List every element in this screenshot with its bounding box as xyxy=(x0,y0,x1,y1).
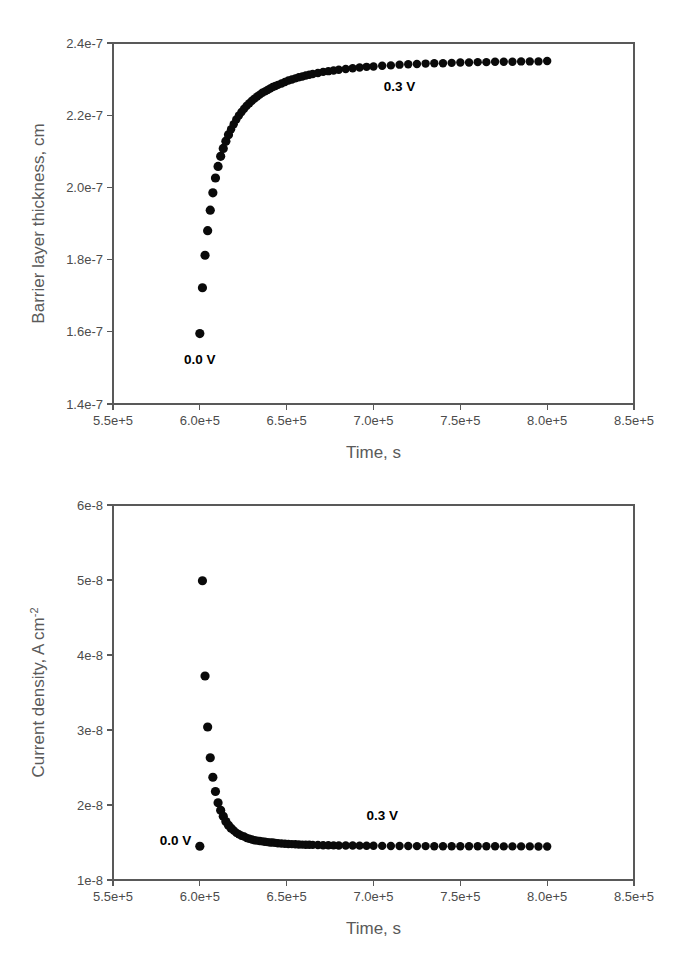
data-point xyxy=(508,842,516,850)
data-point xyxy=(430,842,438,850)
data-point xyxy=(526,842,534,850)
x-tick-label: 8.0e+5 xyxy=(527,413,567,428)
data-point xyxy=(208,773,217,782)
annotation-group: 0.0 V0.3 V xyxy=(184,79,415,367)
data-point xyxy=(203,226,212,235)
data-point xyxy=(208,188,217,197)
y-axis-title-main: Current density, A cm xyxy=(29,617,48,777)
frame-rect xyxy=(113,505,634,880)
data-point xyxy=(508,58,516,66)
x-tick-label: 7.5e+5 xyxy=(440,413,480,428)
data-point xyxy=(543,842,551,850)
y-axis: 1e-82e-83e-84e-85e-86e-8 xyxy=(77,498,113,888)
x-tick-label: 7.0e+5 xyxy=(353,889,393,904)
data-point xyxy=(200,251,209,260)
x-tick-label: 6.5e+5 xyxy=(267,413,307,428)
chart-panel-current-density: 1e-82e-83e-84e-85e-86e-85.5e+56.0e+56.5e… xyxy=(0,460,690,973)
y-tick-label: 6e-8 xyxy=(77,498,103,513)
y-axis-title-group: Current density, A cm-2 xyxy=(28,607,48,777)
voltage-annotation-1: 0.3 V xyxy=(384,79,416,94)
data-point xyxy=(378,842,386,850)
data-point xyxy=(206,753,215,762)
data-point xyxy=(213,162,222,171)
data-point xyxy=(216,152,225,161)
voltage-annotation-1: 0.3 V xyxy=(366,808,398,823)
data-point xyxy=(439,59,447,67)
y-axis-title-superscript: -2 xyxy=(28,607,40,617)
data-point xyxy=(200,671,209,680)
data-series-group xyxy=(195,57,551,338)
voltage-annotation-0: 0.0 V xyxy=(184,352,216,367)
data-point xyxy=(195,842,204,851)
data-point xyxy=(206,206,215,215)
data-point xyxy=(378,62,386,70)
data-point xyxy=(404,842,412,850)
data-point xyxy=(482,58,490,66)
y-tick-label: 2.2e-7 xyxy=(66,108,103,123)
x-tick-label: 8.5e+5 xyxy=(614,413,654,428)
figure-root: 1.4e-71.6e-71.8e-72.0e-72.2e-72.4e-75.5e… xyxy=(0,0,690,973)
data-point xyxy=(203,722,212,731)
voltage-annotation-0: 0.0 V xyxy=(160,833,192,848)
x-tick-label: 7.0e+5 xyxy=(353,413,393,428)
data-point xyxy=(456,58,464,66)
y-tick-label: 5e-8 xyxy=(77,573,103,588)
data-point xyxy=(517,842,525,850)
y-tick-label: 4e-8 xyxy=(77,648,103,663)
plot-frame xyxy=(113,43,634,404)
data-point xyxy=(395,842,403,850)
x-tick-label: 7.5e+5 xyxy=(440,889,480,904)
y-tick-label: 1.4e-7 xyxy=(66,397,103,412)
x-tick-label: 6.0e+5 xyxy=(180,889,220,904)
plot-frame xyxy=(113,505,634,880)
y-tick-label: 3e-8 xyxy=(77,723,103,738)
data-point xyxy=(491,842,499,850)
x-tick-label: 8.5e+5 xyxy=(614,889,654,904)
chart-panel-barrier-layer-thickness: 1.4e-71.6e-71.8e-72.0e-72.2e-72.4e-75.5e… xyxy=(0,0,690,490)
data-point xyxy=(474,58,482,66)
data-point xyxy=(456,842,464,850)
data-point xyxy=(430,59,438,67)
data-point xyxy=(500,842,508,850)
data-point xyxy=(413,60,421,68)
data-point xyxy=(198,576,207,585)
y-tick-label: 2e-8 xyxy=(77,798,103,813)
data-point xyxy=(447,59,455,67)
x-axis: 5.5e+56.0e+56.5e+57.0e+57.5e+58.0e+58.5e… xyxy=(93,404,654,428)
data-point xyxy=(387,61,395,69)
data-point xyxy=(543,57,551,65)
x-axis-title: Time, s xyxy=(346,919,401,938)
data-point xyxy=(413,842,421,850)
data-point xyxy=(369,62,377,70)
barrier-layer-thickness-plot: 1.4e-71.6e-71.8e-72.0e-72.2e-72.4e-75.5e… xyxy=(0,0,690,490)
y-axis-title: Barrier layer thickness, cm xyxy=(29,123,48,323)
data-point xyxy=(474,842,482,850)
data-point xyxy=(534,842,542,850)
data-point xyxy=(211,787,220,796)
data-point xyxy=(491,58,499,66)
y-axis: 1.4e-71.6e-71.8e-72.0e-72.2e-72.4e-7 xyxy=(66,36,113,412)
data-point xyxy=(421,842,429,850)
y-tick-label: 1.8e-7 xyxy=(66,252,103,267)
data-point xyxy=(421,59,429,67)
data-point xyxy=(198,283,207,292)
x-axis: 5.5e+56.0e+56.5e+57.0e+57.5e+58.0e+58.5e… xyxy=(93,880,654,904)
current-density-plot: 1e-82e-83e-84e-85e-86e-85.5e+56.0e+56.5e… xyxy=(0,460,690,973)
y-tick-label: 1e-8 xyxy=(77,873,103,888)
data-point xyxy=(534,57,542,65)
frame-rect xyxy=(113,43,634,404)
data-point xyxy=(195,329,204,338)
data-point xyxy=(482,842,490,850)
data-point xyxy=(369,842,377,850)
data-point xyxy=(211,173,220,182)
data-point xyxy=(500,58,508,66)
data-point xyxy=(387,842,395,850)
data-point xyxy=(404,60,412,68)
data-point xyxy=(526,57,534,65)
x-tick-label: 8.0e+5 xyxy=(527,889,567,904)
data-point xyxy=(517,57,525,65)
y-tick-label: 2.4e-7 xyxy=(66,36,103,51)
data-point xyxy=(447,842,455,850)
data-point xyxy=(465,842,473,850)
y-axis-title: Current density, A cm-2 xyxy=(28,607,48,777)
